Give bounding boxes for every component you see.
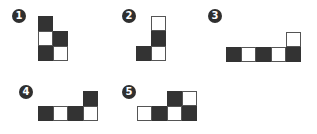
number-badge-5: 5 [122, 85, 136, 99]
shaded-square [226, 47, 241, 62]
shaded-square [182, 106, 197, 121]
shaded-square [151, 31, 166, 46]
empty-square [83, 106, 98, 121]
shaded-square [136, 46, 151, 61]
number-badge-1: 1 [12, 9, 26, 23]
shaded-square [167, 91, 182, 106]
shaded-square [38, 16, 53, 31]
shaded-square [286, 47, 301, 62]
empty-square [182, 91, 197, 106]
shaded-square [83, 91, 98, 106]
empty-square [271, 47, 286, 62]
number-badge-4: 4 [19, 85, 33, 99]
empty-square [137, 106, 152, 121]
empty-square [151, 46, 166, 61]
shaded-square [152, 106, 167, 121]
empty-square [151, 16, 166, 31]
number-badge-3: 3 [208, 9, 222, 23]
shaded-square [256, 47, 271, 62]
shaded-square [38, 106, 53, 121]
shaded-square [68, 106, 83, 121]
shaded-square [53, 31, 68, 46]
shaded-square [38, 46, 53, 61]
empty-square [53, 46, 68, 61]
empty-square [53, 106, 68, 121]
empty-square [38, 31, 53, 46]
empty-square [286, 32, 301, 47]
number-badge-2: 2 [122, 9, 136, 23]
empty-square [241, 47, 256, 62]
empty-square [167, 106, 182, 121]
